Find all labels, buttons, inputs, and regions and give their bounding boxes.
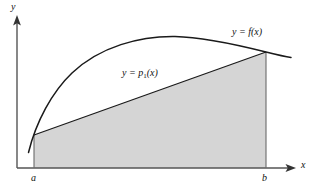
linear-interpolant-label-arg: (x): [147, 67, 158, 78]
function-curve-label-arg: (x): [251, 26, 262, 37]
x-axis-label: x: [301, 160, 305, 170]
function-curve-label: y = f(x): [232, 27, 262, 37]
linear-interpolant-label-prefix: y =: [122, 67, 138, 78]
tick-label-a: a: [31, 173, 36, 183]
linear-interpolant-label: y = p1(x): [122, 68, 158, 80]
y-axis-label: y: [11, 2, 15, 12]
figure-svg: [0, 0, 313, 191]
function-curve-label-prefix: y =: [232, 26, 248, 37]
figure-canvas: y x a b y = f(x) y = p1(x): [0, 0, 313, 191]
tick-label-b: b: [262, 173, 267, 183]
